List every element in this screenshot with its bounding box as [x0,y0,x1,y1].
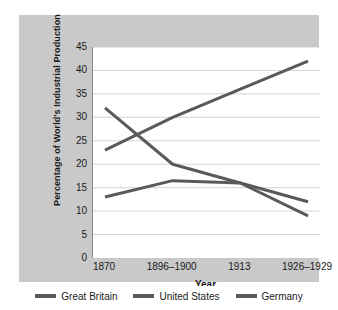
x-tick-label: 1926–1929 [282,261,332,272]
legend-line-swatch-icon [35,294,56,298]
chart-legend: Great BritainUnited StatesGermany [0,286,338,306]
series-line-united-states [105,61,308,150]
y-axis-tick-labels: 454035302520151050 [57,15,87,275]
legend-item[interactable]: United States [133,291,219,302]
series-line-germany [105,181,308,202]
series-line-great-britain [105,108,308,216]
legend-line-swatch-icon [133,294,154,298]
legend-label: United States [159,291,219,302]
plot-area [92,47,320,258]
legend-label: Great Britain [61,291,117,302]
y-tick-label: 45 [61,42,87,52]
x-tick-label: 1896–1900 [147,261,197,272]
plot-lines [93,47,320,258]
legend-item[interactable]: Great Britain [35,291,117,302]
x-tick-label: 1913 [228,261,250,272]
y-tick-label: 15 [61,183,87,193]
y-tick-label: 10 [61,206,87,216]
legend-item[interactable]: Germany [236,291,303,302]
y-tick-label: 40 [61,65,87,75]
legend-line-swatch-icon [236,294,257,298]
chart-card: Percentage of World's Industrial Product… [19,15,319,282]
chart-figure: Percentage of World's Industrial Product… [0,0,338,310]
y-tick-label: 20 [61,159,87,169]
y-tick-label: 30 [61,112,87,122]
x-axis-tick-labels: 18701896–190019131926–1929 [92,261,319,275]
y-tick-label: 5 [61,230,87,240]
x-tick-label: 1870 [93,261,115,272]
y-tick-label: 0 [61,253,87,263]
y-tick-label: 25 [61,136,87,146]
legend-label: Germany [262,291,303,302]
y-tick-label: 35 [61,89,87,99]
